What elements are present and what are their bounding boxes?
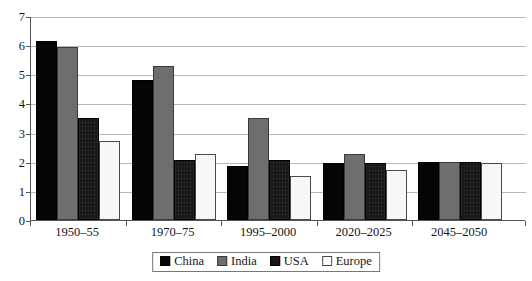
bar-usa-0 bbox=[78, 118, 99, 220]
bar-india-0 bbox=[57, 47, 78, 220]
bar-group bbox=[418, 17, 502, 220]
x-axis-tick bbox=[126, 221, 127, 226]
y-axis-tick bbox=[26, 17, 31, 18]
x-axis-tick bbox=[221, 221, 222, 226]
bar-india-4 bbox=[439, 162, 460, 220]
plot-area: 01234567 bbox=[30, 17, 525, 221]
legend-swatch-icon bbox=[270, 256, 280, 266]
legend-swatch-icon bbox=[160, 256, 170, 266]
bar-usa-1 bbox=[174, 160, 195, 220]
x-axis-tick bbox=[30, 221, 31, 226]
bar-group bbox=[323, 17, 407, 220]
bar-china-2 bbox=[227, 166, 248, 220]
y-axis-tick-label: 0 bbox=[5, 215, 25, 228]
x-axis-tick-label: 2020–2025 bbox=[335, 226, 391, 239]
bar-usa-4 bbox=[460, 162, 481, 220]
legend-label: USA bbox=[284, 255, 309, 268]
x-axis-tick-label: 2045–2050 bbox=[431, 226, 487, 239]
y-axis-tick-label: 6 bbox=[5, 40, 25, 53]
y-axis-tick bbox=[26, 134, 31, 135]
bar-china-4 bbox=[418, 162, 439, 220]
legend-swatch-icon bbox=[217, 256, 227, 266]
y-axis-tick-label: 1 bbox=[5, 186, 25, 199]
bar-europe-4 bbox=[481, 163, 502, 220]
y-axis-tick bbox=[26, 192, 31, 193]
chart-legend: ChinaIndiaUSAEurope bbox=[152, 252, 380, 272]
x-axis-tick bbox=[412, 221, 413, 226]
legend-label: Europe bbox=[336, 255, 372, 268]
bar-europe-2 bbox=[290, 176, 311, 220]
legend-item-india[interactable]: India bbox=[217, 255, 257, 268]
y-axis-tick-label: 7 bbox=[5, 11, 25, 24]
x-axis-tick bbox=[525, 221, 526, 226]
x-axis-tick bbox=[317, 221, 318, 226]
bar-group bbox=[227, 17, 311, 220]
bar-india-2 bbox=[248, 118, 269, 220]
bar-group bbox=[132, 17, 216, 220]
bar-europe-3 bbox=[386, 170, 407, 220]
x-axis-tick-label: 1995–2000 bbox=[240, 226, 296, 239]
legend-label: India bbox=[231, 255, 257, 268]
bar-china-3 bbox=[323, 163, 344, 220]
legend-swatch-icon bbox=[322, 256, 332, 266]
grouped-bar-chart: 01234567 1950–551970–751995–20002020–202… bbox=[0, 0, 532, 281]
y-axis-tick bbox=[26, 75, 31, 76]
legend-item-usa[interactable]: USA bbox=[270, 255, 309, 268]
bar-group bbox=[36, 17, 120, 220]
y-axis-tick-label: 3 bbox=[5, 127, 25, 140]
y-axis-tick bbox=[26, 46, 31, 47]
y-axis-tick bbox=[26, 104, 31, 105]
bar-china-1 bbox=[132, 80, 153, 220]
bar-usa-2 bbox=[269, 160, 290, 220]
bar-europe-1 bbox=[195, 154, 216, 220]
y-axis-tick-label: 5 bbox=[5, 69, 25, 82]
bar-europe-0 bbox=[99, 141, 120, 220]
bar-china-0 bbox=[36, 41, 57, 220]
y-axis-tick-label: 4 bbox=[5, 98, 25, 111]
legend-item-china[interactable]: China bbox=[160, 255, 204, 268]
bar-india-3 bbox=[344, 154, 365, 220]
bar-india-1 bbox=[153, 66, 174, 220]
legend-item-europe[interactable]: Europe bbox=[322, 255, 372, 268]
y-axis-tick-label: 2 bbox=[5, 156, 25, 169]
legend-label: China bbox=[174, 255, 204, 268]
y-axis-tick bbox=[26, 163, 31, 164]
x-axis-tick-label: 1950–55 bbox=[55, 226, 99, 239]
x-axis-tick-label: 1970–75 bbox=[151, 226, 195, 239]
bar-usa-3 bbox=[365, 163, 386, 220]
